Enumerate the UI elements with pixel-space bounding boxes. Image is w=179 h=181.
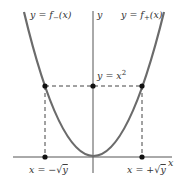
point-pos-root (139, 154, 144, 159)
point-right-curve (139, 83, 144, 88)
label-f-plus: y = f+(x) (120, 9, 163, 22)
label-x-axis: x (168, 157, 174, 168)
label-y-axis: y (96, 9, 103, 20)
point-left-curve (42, 83, 47, 88)
label-f-minus: y = f−(x) (29, 9, 72, 22)
label-y-equals-x-squared: y = x2 (96, 69, 126, 81)
label-pos-root: x = +√y (127, 164, 166, 175)
point-neg-root (42, 154, 47, 159)
label-neg-root: x = −√y (29, 164, 68, 175)
parabola-diagram: y = f−(x) y y = f+(x) y = x2 x = −√y x =… (0, 0, 179, 181)
point-y-axis (90, 83, 95, 88)
